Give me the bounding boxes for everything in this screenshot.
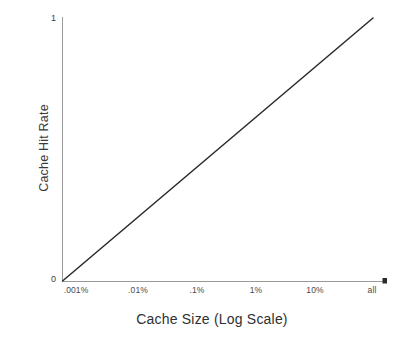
x-tick-label-5: all	[368, 285, 377, 295]
series-line-cache-hit-rate[interactable]	[63, 18, 374, 281]
x-tick-label-2: .1%	[190, 285, 205, 295]
x-axis-title: Cache Size (Log Scale)	[62, 311, 362, 327]
y-axis-title: Cache Hit Rate	[36, 16, 52, 280]
x-axis-end-marker-icon	[383, 278, 388, 284]
x-tick-label-3: 1%	[250, 285, 263, 295]
x-tick-label-0: .001%	[64, 285, 89, 295]
chart-container: 1 0 .001% .01% .1% 1% 10% all Cache Hit …	[0, 0, 406, 340]
x-tick-label-4: 10%	[306, 285, 323, 295]
x-tick-label-1: .01%	[128, 285, 148, 295]
